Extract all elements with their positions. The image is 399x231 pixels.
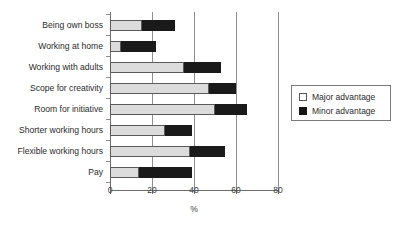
plot-area bbox=[110, 12, 278, 190]
chart-legend: Major advantage Minor advantage bbox=[291, 85, 391, 121]
bar-segment-major-advantage bbox=[110, 41, 121, 52]
category-label: Flexible working hours bbox=[18, 146, 104, 157]
bar-chart: Being own boss Working at home Working w… bbox=[0, 0, 399, 231]
bar-segment-major-advantage bbox=[110, 104, 215, 115]
x-tick-label: 0 bbox=[108, 185, 113, 195]
bar-segment-minor-advantage bbox=[142, 20, 176, 31]
x-tick-label: 80 bbox=[273, 185, 282, 195]
bar-segment-minor-advantage bbox=[215, 104, 247, 115]
bar-segment-major-advantage bbox=[110, 167, 139, 178]
y-tick bbox=[106, 161, 110, 162]
bar-segment-minor-advantage bbox=[184, 62, 222, 73]
y-tick bbox=[106, 98, 110, 99]
y-tick bbox=[106, 56, 110, 57]
y-axis-line bbox=[110, 12, 111, 190]
gridline-60 bbox=[236, 12, 237, 190]
category-label: Being own boss bbox=[42, 20, 103, 31]
y-tick bbox=[106, 77, 110, 78]
bar-segment-major-advantage bbox=[110, 62, 184, 73]
bar-segment-minor-advantage bbox=[209, 83, 236, 94]
bar-segment-minor-advantage bbox=[165, 125, 192, 136]
bar-segment-minor-advantage bbox=[139, 167, 192, 178]
category-label: Pay bbox=[88, 167, 103, 178]
legend-label: Major advantage bbox=[312, 92, 375, 102]
y-tick bbox=[106, 35, 110, 36]
category-label: Working with adults bbox=[29, 62, 103, 73]
legend-item-minor-advantage: Minor advantage bbox=[299, 105, 375, 117]
legend-item-major-advantage: Major advantage bbox=[299, 91, 375, 103]
bar-segment-major-advantage bbox=[110, 20, 142, 31]
category-label: Room for initiative bbox=[34, 104, 103, 115]
bar-segment-major-advantage bbox=[110, 146, 190, 157]
category-label: Working at home bbox=[38, 41, 103, 52]
x-axis-title: % bbox=[110, 204, 278, 214]
category-label: Scope for creativity bbox=[30, 83, 103, 94]
x-tick-label: 40 bbox=[189, 185, 198, 195]
category-label: Shorter working hours bbox=[19, 125, 103, 136]
gridline-20 bbox=[152, 12, 153, 190]
legend-label: Minor advantage bbox=[312, 106, 375, 116]
y-tick bbox=[106, 14, 110, 15]
y-tick bbox=[106, 182, 110, 183]
gridline-80 bbox=[278, 12, 279, 190]
x-tick-label: 20 bbox=[147, 185, 156, 195]
bar-segment-minor-advantage bbox=[121, 41, 157, 52]
y-tick bbox=[106, 119, 110, 120]
bar-segment-major-advantage bbox=[110, 125, 165, 136]
major-advantage-swatch-icon bbox=[299, 93, 307, 101]
x-tick-label: 60 bbox=[231, 185, 240, 195]
y-tick bbox=[106, 140, 110, 141]
bar-segment-major-advantage bbox=[110, 83, 209, 94]
bar-segment-minor-advantage bbox=[190, 146, 226, 157]
gridline-40 bbox=[194, 12, 195, 190]
minor-advantage-swatch-icon bbox=[299, 107, 307, 115]
